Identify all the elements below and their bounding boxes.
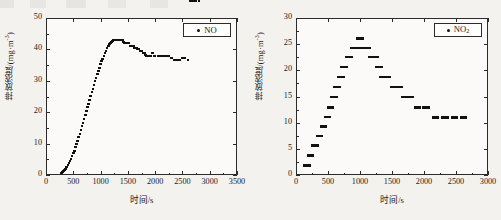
x-tick — [155, 171, 156, 175]
y-tick-right — [484, 70, 488, 71]
data-point — [87, 103, 90, 105]
y-minor-tick — [296, 110, 299, 111]
data-point — [104, 52, 107, 54]
y-axis-title-exponent: -3 — [4, 35, 10, 40]
data-point — [97, 70, 100, 72]
x-tick — [46, 171, 47, 175]
y-tick-right — [233, 112, 237, 113]
data-point — [451, 116, 459, 118]
y-tick-right — [484, 44, 488, 45]
data-point — [82, 122, 85, 124]
x-minor-tick — [440, 173, 441, 176]
data-point — [152, 52, 155, 54]
data-point — [93, 84, 96, 86]
x-tick-top — [155, 18, 156, 22]
chart-panel-no: 010203040500500100015002000250030003500排… — [0, 0, 250, 220]
legend-label: NO2 — [454, 25, 470, 34]
x-tick-top — [296, 18, 297, 22]
legend-label-text: NO — [454, 24, 466, 34]
y-minor-tick — [296, 31, 299, 32]
y-axis-title-tail: ) — [6, 32, 15, 35]
chart-panel-no2: 051015202530050010001500200025003000排放浓度… — [250, 0, 501, 220]
x-tick-top — [182, 18, 183, 22]
data-point — [79, 133, 82, 135]
data-point — [333, 86, 341, 88]
x-tick-label: 0 — [31, 178, 61, 186]
x-tick — [101, 171, 102, 175]
data-point — [149, 55, 152, 57]
y-minor-tick — [296, 136, 299, 137]
x-minor-tick — [376, 173, 377, 176]
x-tick-top — [210, 18, 211, 22]
y-tick-label: 20 — [20, 107, 42, 115]
data-point — [320, 125, 328, 127]
x-tick-top — [328, 18, 329, 22]
data-point — [324, 116, 332, 118]
x-tick — [424, 171, 425, 175]
data-point — [98, 67, 101, 69]
legend[interactable]: NO2 — [434, 23, 482, 37]
x-tick-label: 3500 — [222, 178, 252, 186]
y-axis-title: 排放浓度/(mg·m-3) — [4, 32, 15, 100]
data-point — [311, 144, 319, 146]
y-tick-label: 40 — [20, 44, 42, 52]
y-tick-right — [233, 175, 237, 176]
x-tick-top — [488, 18, 489, 22]
data-point — [187, 59, 190, 61]
data-point — [80, 129, 83, 131]
y-tick — [46, 81, 50, 82]
legend-marker-icon — [197, 29, 200, 32]
x-tick — [237, 171, 238, 175]
x-tick-top — [237, 18, 238, 22]
data-point — [441, 116, 449, 118]
data-point — [75, 143, 78, 145]
x-tick-label: 1500 — [113, 178, 143, 186]
y-tick-label: 25 — [270, 39, 292, 47]
x-tick-top — [424, 18, 425, 22]
y-tick-right — [484, 123, 488, 124]
data-point — [72, 152, 75, 154]
x-tick-label: 2000 — [140, 178, 170, 186]
data-point — [330, 96, 338, 98]
data-point — [92, 88, 95, 90]
x-minor-tick — [196, 173, 197, 176]
data-point — [303, 164, 311, 166]
y-tick-label: 15 — [270, 92, 292, 100]
x-tick-label: 1000 — [345, 178, 375, 186]
y-axis-title-text: 排放浓度/(mg·m — [256, 40, 265, 99]
y-minor-tick — [46, 128, 49, 129]
data-point — [81, 125, 84, 127]
data-point — [103, 55, 106, 57]
y-minor-tick — [46, 159, 49, 160]
x-minor-tick — [114, 173, 115, 176]
legend[interactable]: NO — [183, 23, 231, 37]
data-point — [100, 60, 103, 62]
plot-frame — [296, 18, 488, 175]
y-tick-right — [484, 149, 488, 150]
x-minor-tick — [87, 173, 88, 176]
y-tick — [296, 70, 300, 71]
y-tick — [46, 175, 50, 176]
x-tick-top — [73, 18, 74, 22]
x-tick-top — [456, 18, 457, 22]
y-tick — [296, 175, 300, 176]
data-point — [69, 160, 72, 162]
x-tick-top — [101, 18, 102, 22]
data-point — [337, 76, 345, 78]
y-minor-tick — [296, 57, 299, 58]
y-tick-label: 20 — [270, 65, 292, 73]
data-point — [74, 146, 77, 148]
legend-label-subscript: 2 — [466, 27, 469, 34]
legend-label: NO — [204, 26, 216, 35]
y-tick — [296, 44, 300, 45]
data-point — [70, 158, 73, 160]
data-point — [316, 135, 324, 137]
y-tick-right — [233, 144, 237, 145]
data-point — [91, 91, 94, 93]
y-axis-title: 排放浓度/(mg·m-3) — [254, 32, 265, 100]
x-tick — [360, 171, 361, 175]
x-tick-top — [128, 18, 129, 22]
data-point — [106, 47, 109, 49]
data-point — [372, 56, 380, 58]
x-tick-top — [360, 18, 361, 22]
